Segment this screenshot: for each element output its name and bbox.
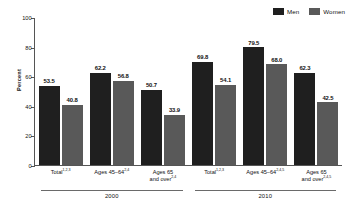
category-label: Ages 45–642,4 xyxy=(86,168,137,188)
bar-value-label: 54.1 xyxy=(220,77,231,83)
category-label: Ages 65and over2,4,5 xyxy=(291,168,342,188)
bar-slot-men: 50.7 xyxy=(141,18,162,165)
bar-slot-men: 62.3 xyxy=(294,18,315,165)
bar-women[interactable] xyxy=(62,105,83,165)
bar-value-label: 50.7 xyxy=(146,82,157,88)
y-tick-label: 40 xyxy=(25,104,31,110)
bar-value-label: 33.9 xyxy=(169,107,180,113)
bar-slot-men: 69.8 xyxy=(192,18,213,165)
bar-slot-women: 33.9 xyxy=(164,18,185,165)
category-label: Ages 45–642,4,5 xyxy=(240,168,291,188)
plot-area: 100806040200 53.540.862.256.850.733.969.… xyxy=(34,18,342,166)
bar-slot-women: 42.5 xyxy=(317,18,338,165)
bar-series-container: 53.540.862.256.850.733.969.854.179.568.0… xyxy=(35,18,342,165)
bar-value-label: 79.5 xyxy=(248,40,259,46)
chart-legend: Men Women xyxy=(273,8,345,15)
legend-entry-men: Men xyxy=(273,8,299,15)
y-tick-label: 0 xyxy=(28,163,31,169)
bar-value-label: 40.8 xyxy=(67,97,78,103)
bar-pair: 79.568.0 xyxy=(240,18,291,165)
category-label-row: Total1,2,3Ages 45–642,4Ages 65and over2,… xyxy=(35,168,342,188)
bar-slot-men: 53.5 xyxy=(39,18,60,165)
bar-value-label: 69.8 xyxy=(197,54,208,60)
legend-swatch-women xyxy=(309,8,320,15)
y-tick-label: 20 xyxy=(25,133,31,139)
category-group-2000: Total1,2,3Ages 45–642,4Ages 65and over2,… xyxy=(35,168,189,188)
bar-men[interactable] xyxy=(39,86,60,165)
bar-men[interactable] xyxy=(243,47,264,165)
year-rule xyxy=(41,190,183,191)
legend-entry-women: Women xyxy=(309,8,345,15)
year-label: 2000 xyxy=(105,193,119,199)
y-tick-label: 60 xyxy=(25,74,31,80)
bar-pair: 50.733.9 xyxy=(137,18,188,165)
category-group-2010: Total1,2,3Ages 45–642,4,5Ages 65and over… xyxy=(189,168,343,188)
category-label: Total1,2,3 xyxy=(35,168,86,188)
legend-swatch-men xyxy=(273,8,284,15)
bar-women[interactable] xyxy=(164,115,185,165)
bar-pair: 69.854.1 xyxy=(189,18,240,165)
bar-slot-women: 40.8 xyxy=(62,18,83,165)
bar-pair: 53.540.8 xyxy=(35,18,86,165)
category-label: Total1,2,3 xyxy=(189,168,240,188)
year-rule xyxy=(195,190,337,191)
legend-label-men: Men xyxy=(287,8,299,15)
bar-women[interactable] xyxy=(266,64,287,165)
year-group: 2010 xyxy=(189,190,343,206)
year-group-row: 20002010 xyxy=(35,190,342,206)
bar-men[interactable] xyxy=(294,73,315,165)
bar-group-2010: 69.854.179.568.062.342.5 xyxy=(189,18,343,165)
bar-value-label: 56.8 xyxy=(118,73,129,79)
bar-pair: 62.342.5 xyxy=(291,18,342,165)
bar-value-label: 62.3 xyxy=(299,65,310,71)
bar-pair: 62.256.8 xyxy=(86,18,137,165)
bar-chart: Men Women Percent 100806040200 53.540.86… xyxy=(0,0,353,210)
bar-slot-women: 68.0 xyxy=(266,18,287,165)
bar-men[interactable] xyxy=(90,73,111,165)
bar-slot-men: 79.5 xyxy=(243,18,264,165)
bar-value-label: 62.2 xyxy=(95,65,106,71)
y-axis-title-text: Percent xyxy=(16,69,22,91)
year-label: 2010 xyxy=(258,193,272,199)
bar-slot-women: 56.8 xyxy=(113,18,134,165)
bar-men[interactable] xyxy=(141,90,162,165)
x-axis-line xyxy=(34,165,342,166)
bar-value-label: 68.0 xyxy=(271,57,282,63)
bar-men[interactable] xyxy=(192,62,213,165)
legend-label-women: Women xyxy=(323,8,345,15)
category-label: Ages 65and over2,4 xyxy=(137,168,188,188)
bar-value-label: 53.5 xyxy=(44,78,55,84)
bar-slot-women: 54.1 xyxy=(215,18,236,165)
bar-women[interactable] xyxy=(113,81,134,165)
y-tick-label: 100 xyxy=(22,15,31,21)
bar-women[interactable] xyxy=(317,102,338,165)
year-group: 2000 xyxy=(35,190,189,206)
bar-group-2000: 53.540.862.256.850.733.9 xyxy=(35,18,189,165)
bar-women[interactable] xyxy=(215,85,236,165)
y-tick-label: 80 xyxy=(25,45,31,51)
bar-slot-men: 62.2 xyxy=(90,18,111,165)
bar-value-label: 42.5 xyxy=(322,95,333,101)
